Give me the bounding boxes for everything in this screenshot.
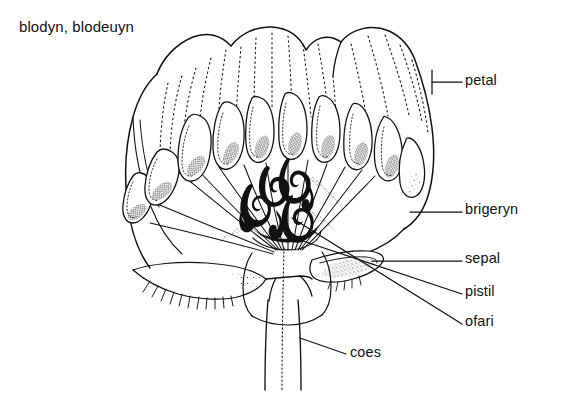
botanical-diagram: blodyn, blodeuyn petal brigeryn sepal pi… bbox=[0, 0, 577, 396]
sepal-group bbox=[133, 251, 383, 309]
label-petal: petal bbox=[465, 72, 497, 88]
figure-title: blodyn, blodeuyn bbox=[19, 18, 134, 35]
label-coes: coes bbox=[350, 344, 381, 360]
flower-illustration bbox=[0, 0, 577, 396]
label-pistil: pistil bbox=[465, 283, 495, 299]
stem bbox=[265, 248, 301, 390]
label-sepal: sepal bbox=[465, 250, 500, 266]
label-brigeryn: brigeryn bbox=[465, 201, 518, 217]
ovary-carpel-group bbox=[212, 158, 342, 250]
label-ofari: ofari bbox=[465, 313, 494, 329]
leader-coes bbox=[300, 338, 346, 354]
